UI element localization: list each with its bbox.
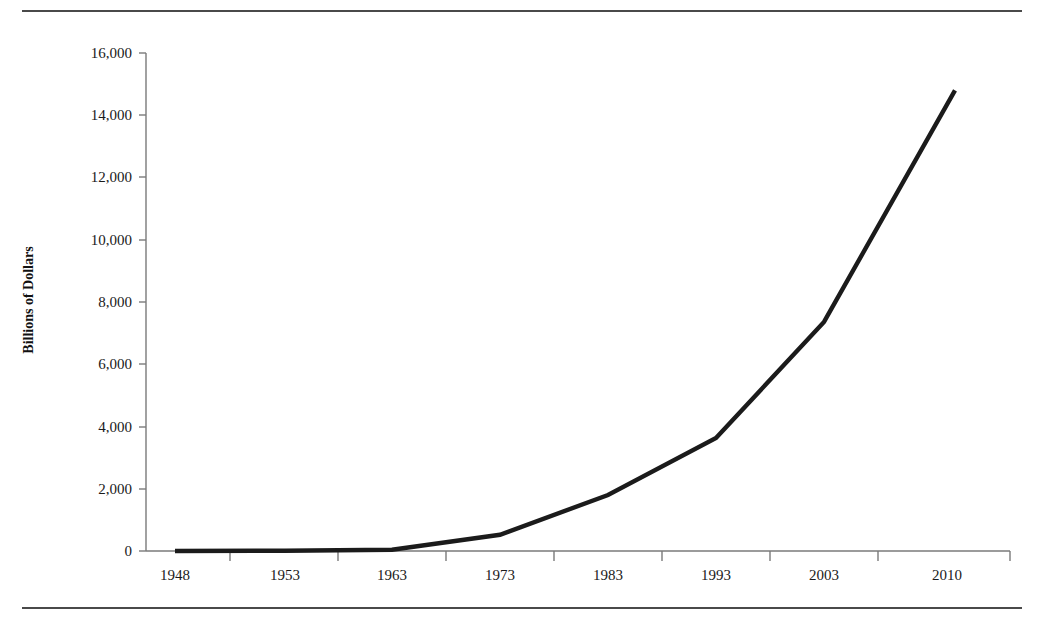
y-axis-label-12000: 12,000	[91, 169, 132, 185]
y-axis-label-8000: 8,000	[98, 294, 132, 310]
y-axis-label-2000: 2,000	[98, 481, 132, 497]
data-series-line	[175, 90, 955, 551]
figure-container: Billions of Dollars 16,000 14,000 12	[0, 0, 1038, 629]
x-axis-label-2003: 2003	[809, 567, 839, 583]
x-axis-label-1993: 1993	[701, 567, 731, 583]
y-axis-label-0: 0	[125, 543, 133, 559]
y-axis-label-6000: 6,000	[98, 356, 132, 372]
x-axis-label-1963: 1963	[377, 567, 407, 583]
x-axis-label-1953: 1953	[270, 567, 300, 583]
x-axis-label-2010: 2010	[932, 567, 962, 583]
y-axis-label-4000: 4,000	[98, 419, 132, 435]
chart-plot-area: Billions of Dollars 16,000 14,000 12	[0, 0, 1038, 600]
x-axis-label-1983: 1983	[593, 567, 623, 583]
figure-bottom-rule	[22, 607, 1022, 609]
y-axis-label-14000: 14,000	[91, 107, 132, 123]
line-chart-svg: Billions of Dollars 16,000 14,000 12	[0, 0, 1038, 600]
y-axis-ticks	[139, 53, 146, 551]
x-axis-labels: 1948 1953 1963 1973 1983 1993 2003 2010	[160, 567, 962, 583]
y-axis-label-16000: 16,000	[91, 45, 132, 61]
x-axis-label-1973: 1973	[485, 567, 515, 583]
y-axis-title: Billions of Dollars	[21, 246, 36, 354]
y-axis-labels: 16,000 14,000 12,000 10,000 8,000 6,000 …	[91, 45, 132, 559]
x-axis-label-1948: 1948	[160, 567, 190, 583]
y-axis-label-10000: 10,000	[91, 232, 132, 248]
x-axis-ticks	[230, 551, 1010, 561]
